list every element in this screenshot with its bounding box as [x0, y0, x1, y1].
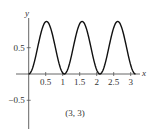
chart-canvas: 0.511.522.53 0.5−0.5 x y (3, 3) — [0, 0, 150, 135]
x-tick-label: 2.5 — [108, 77, 120, 87]
x-tick-label: 2 — [94, 77, 99, 87]
x-tick-label: 3 — [128, 77, 133, 87]
x-tick-label: 0.5 — [40, 77, 52, 87]
y-axis-label: y — [24, 8, 29, 18]
x-tick-label: 1 — [60, 77, 65, 87]
y-tick-label: 0.5 — [13, 43, 25, 53]
curve-sin-squared — [29, 21, 136, 74]
annotation-label: (3, 3) — [65, 108, 85, 118]
y-tick-label: −0.5 — [8, 95, 25, 105]
x-tick-label: 1.5 — [74, 77, 86, 87]
x-axis-label: x — [141, 68, 146, 78]
